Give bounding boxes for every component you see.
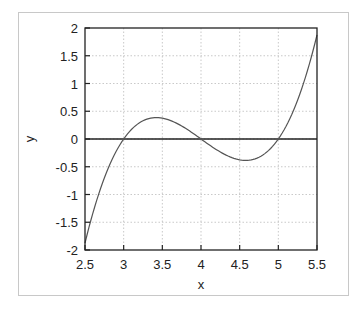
x-tick-label: 3.5 [153, 257, 171, 272]
x-tick-label: 3 [120, 257, 127, 272]
x-tick-label: 4 [197, 257, 204, 272]
x-tick-label: 5.5 [308, 257, 326, 272]
y-axis-label: y [22, 135, 37, 142]
y-tick-label: -1.5 [56, 215, 78, 230]
x-tick-label: 2.5 [76, 257, 94, 272]
chart-canvas: 2.533.544.555.521.510.50-0.5-1-1.5-2 x y [0, 0, 364, 310]
x-tick-label: 5 [275, 257, 282, 272]
y-tick-label: -1 [66, 188, 78, 203]
y-tick-label: 1 [71, 77, 78, 92]
y-tick-label: 0 [71, 132, 78, 147]
y-tick-label: 1.5 [60, 49, 78, 64]
y-tick-label: 2 [71, 21, 78, 36]
axis-ticks: 2.533.544.555.521.510.50-0.5-1-1.5-2 [56, 21, 326, 272]
x-tick-label: 4.5 [231, 257, 249, 272]
x-axis-label: x [198, 277, 205, 292]
y-tick-label: -2 [66, 243, 78, 258]
y-tick-label: -0.5 [56, 160, 78, 175]
y-tick-label: 0.5 [60, 104, 78, 119]
